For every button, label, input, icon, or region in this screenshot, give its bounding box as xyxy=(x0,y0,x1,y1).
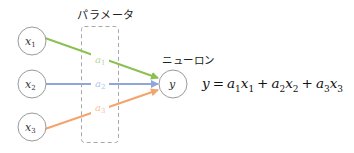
parameter-label: パラメータ xyxy=(77,6,135,22)
plus-sign: + xyxy=(299,75,316,91)
term-3: a3x3 xyxy=(316,75,343,91)
term-1: a1x1 xyxy=(227,75,254,91)
plus-sign: + xyxy=(254,75,271,91)
equation: y=a1x1+a2x2+a3x3 xyxy=(202,75,343,94)
svg-text:y: y xyxy=(168,78,176,91)
equals-sign: = xyxy=(210,75,227,91)
neuron-label: ニューロン xyxy=(162,52,215,67)
equation-lhs: y xyxy=(202,75,210,91)
term-2: a2x2 xyxy=(271,75,298,91)
